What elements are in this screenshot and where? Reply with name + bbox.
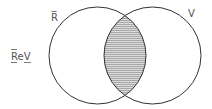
label-v: V: [188, 8, 195, 19]
svg-text:ReV: ReV: [11, 51, 31, 62]
svg-text:R̅: R̅: [51, 11, 58, 23]
venn-diagram: R̅ V ReV: [0, 0, 212, 109]
label-not-r: R̅: [51, 11, 58, 23]
region-label: ReV: [11, 50, 31, 63]
